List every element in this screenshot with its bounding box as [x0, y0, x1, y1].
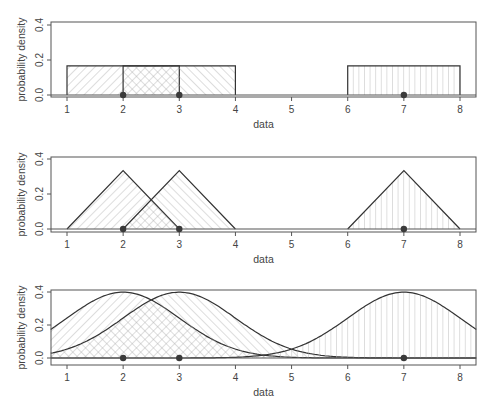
x-tick-label: 7 [401, 104, 407, 115]
kernel-fill-7 [348, 171, 460, 229]
x-tick-label: 2 [120, 104, 126, 115]
data-point [176, 92, 182, 98]
x-tick-label: 3 [177, 104, 183, 115]
x-tick-label: 6 [345, 239, 351, 250]
y-tick-label: 0.4 [34, 18, 45, 32]
x-tick-label: 2 [120, 372, 126, 383]
x-tick-label: 1 [64, 239, 70, 250]
data-point [120, 92, 126, 98]
data-point [120, 355, 126, 361]
y-tick-label: 0.4 [34, 152, 45, 166]
x-tick-label: 8 [457, 104, 463, 115]
panel-gaussian: 123456780.00.20.4dataprobability density [15, 285, 476, 398]
y-tick-label: 0.2 [34, 53, 45, 67]
x-axis-label: data [253, 253, 274, 265]
y-axis-label: probability density [15, 152, 27, 237]
x-tick-label: 2 [120, 239, 126, 250]
x-tick-label: 4 [233, 104, 239, 115]
y-tick-label: 0.0 [34, 351, 45, 365]
data-point [176, 355, 182, 361]
x-tick-label: 4 [233, 372, 239, 383]
panel-triangular: 123456780.00.20.4dataprobability density [15, 152, 476, 265]
y-tick-label: 0.4 [34, 285, 45, 299]
data-point [120, 226, 126, 232]
y-axis-label: probability density [15, 285, 27, 370]
x-tick-label: 4 [233, 239, 239, 250]
x-tick-label: 3 [177, 372, 183, 383]
x-tick-label: 5 [289, 239, 295, 250]
x-tick-label: 5 [289, 104, 295, 115]
y-tick-label: 0.0 [34, 222, 45, 236]
x-tick-label: 1 [64, 372, 70, 383]
data-point [176, 226, 182, 232]
y-tick-label: 0.2 [34, 187, 45, 201]
y-tick-label: 0.0 [34, 88, 45, 102]
x-tick-label: 8 [457, 372, 463, 383]
data-point [401, 226, 407, 232]
x-tick-label: 6 [345, 104, 351, 115]
x-axis-label: data [253, 386, 274, 398]
x-tick-label: 7 [401, 239, 407, 250]
x-tick-label: 1 [64, 104, 70, 115]
data-point [401, 355, 407, 361]
x-tick-label: 8 [457, 239, 463, 250]
kernel-fill-3 [123, 66, 235, 95]
x-tick-label: 7 [401, 372, 407, 383]
y-tick-label: 0.2 [34, 318, 45, 332]
x-tick-label: 6 [345, 372, 351, 383]
kernel-density-figure: 123456780.00.20.4dataprobability density… [0, 0, 497, 411]
data-point [401, 92, 407, 98]
kernel-fill-7 [348, 66, 460, 95]
x-tick-label: 5 [289, 372, 295, 383]
x-tick-label: 3 [177, 239, 183, 250]
panel-rectangular: 123456780.00.20.4dataprobability density [15, 17, 476, 130]
y-axis-label: probability density [15, 17, 27, 102]
x-axis-label: data [253, 118, 274, 130]
